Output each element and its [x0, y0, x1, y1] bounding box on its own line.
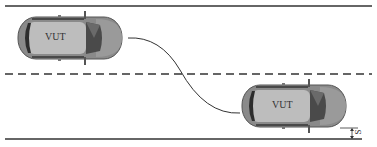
dimension-s-label: S: [353, 129, 363, 134]
lane-change-path: [128, 38, 240, 113]
vut-end-car: [242, 79, 346, 133]
vut-start-label: VUT: [45, 31, 66, 42]
vut-start-car: [18, 11, 122, 65]
vut-end-label: VUT: [272, 99, 293, 110]
lane-change-diagram: [0, 0, 377, 147]
